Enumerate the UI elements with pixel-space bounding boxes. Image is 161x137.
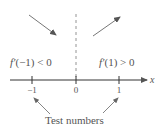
derivative-condition: (1) > 0 — [104, 56, 134, 68]
pointer-arrow-left-icon — [34, 98, 50, 114]
x-axis-label: x — [150, 75, 154, 85]
increasing-arrow-icon — [93, 17, 120, 36]
decreasing-arrow-icon — [29, 15, 56, 35]
sign-chart-diagram: f′(−1) < 0 f′(1) > 0 −1 0 1 x Test numbe… — [0, 0, 161, 137]
left-region-derivative-label: f′(−1) < 0 — [10, 57, 52, 68]
right-region-derivative-label: f′(1) > 0 — [99, 57, 135, 68]
derivative-condition: (−1) < 0 — [15, 56, 51, 68]
pointer-arrow-right-icon — [103, 98, 118, 113]
test-numbers-caption: Test numbers — [45, 115, 104, 126]
tick-label-1: 1 — [117, 86, 122, 95]
tick-label-0: 0 — [74, 86, 79, 95]
tick-label-neg1: −1 — [27, 86, 37, 95]
